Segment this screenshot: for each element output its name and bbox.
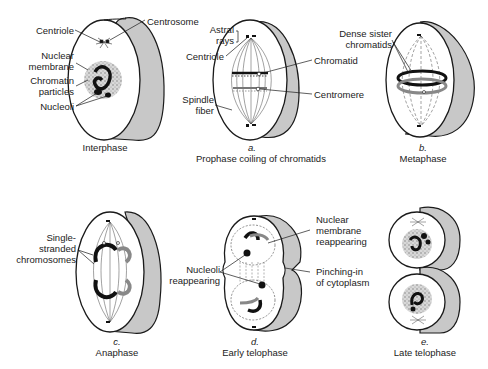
interphase-cell [68, 18, 164, 141]
caption-late-telophase: e. Late telophase [390, 336, 460, 358]
label-astral-rays: Astralrays [200, 24, 234, 46]
early-telophase-cell [220, 216, 310, 331]
label-nucleoli-reappearing: Nucleolireappearing [165, 264, 220, 286]
label-pinching-in-cytoplasm: Pinching-inof cytoplasm [316, 266, 369, 288]
label-centriole-a: Centriole [180, 51, 224, 62]
label-centriole: Centriole [18, 25, 74, 36]
caption-anaphase: c. Anaphase [92, 336, 142, 358]
label-chromatid: Chromatid [314, 55, 358, 66]
label-nucleoli: Nucleoli [18, 101, 74, 112]
caption-prophase: a. Prophase coiling of chromatids [196, 142, 308, 164]
late-telophase-cell [389, 207, 460, 333]
caption-early-telophase: d. Early telophase [220, 336, 290, 358]
mitosis-diagram: Centriole Centrosome Nuclearmembrane Chr… [0, 0, 488, 369]
label-dense-sister-chromatids: Dense sisterchromatids [330, 28, 392, 50]
label-nuclear-membrane: Nuclearmembrane [18, 50, 74, 72]
caption-interphase: Interphase [80, 142, 130, 153]
label-centrosome: Centrosome [147, 16, 199, 27]
label-single-stranded-chromosomes: Single-strandedchromosomes [14, 232, 76, 265]
caption-metaphase: b. Metaphase [398, 142, 448, 164]
label-nuclear-membrane-reappearing: Nuclearmembranereappearing [316, 214, 367, 247]
label-chromatin-particles: Chromatinparticles [18, 75, 74, 97]
metaphase-cell [386, 22, 474, 137]
anaphase-cell [76, 212, 161, 333]
label-spindle-fiber: Spindlefiber [180, 94, 214, 116]
label-centromere: Centromere [314, 89, 364, 100]
